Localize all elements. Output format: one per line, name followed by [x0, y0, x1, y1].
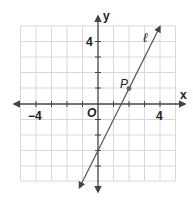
y-axis-label: y [103, 9, 110, 23]
origin-label: O [87, 106, 97, 120]
y-tick-label-4: 4 [86, 35, 93, 49]
coordinate-graph: x y O −4 4 4 ℓ P [0, 0, 193, 201]
x-tick-label-4: 4 [156, 109, 163, 123]
line-label: ℓ [143, 30, 148, 45]
point-label: P [120, 77, 128, 91]
x-axis-label: x [180, 88, 187, 102]
x-tick-label-neg4: −4 [28, 109, 42, 123]
